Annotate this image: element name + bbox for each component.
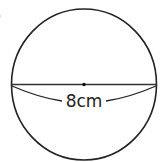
diameter-label: 8cm bbox=[62, 91, 107, 111]
diameter-label-wrap: 8cm bbox=[0, 91, 167, 111]
center-point bbox=[82, 83, 86, 87]
circle-diagram bbox=[0, 0, 167, 162]
